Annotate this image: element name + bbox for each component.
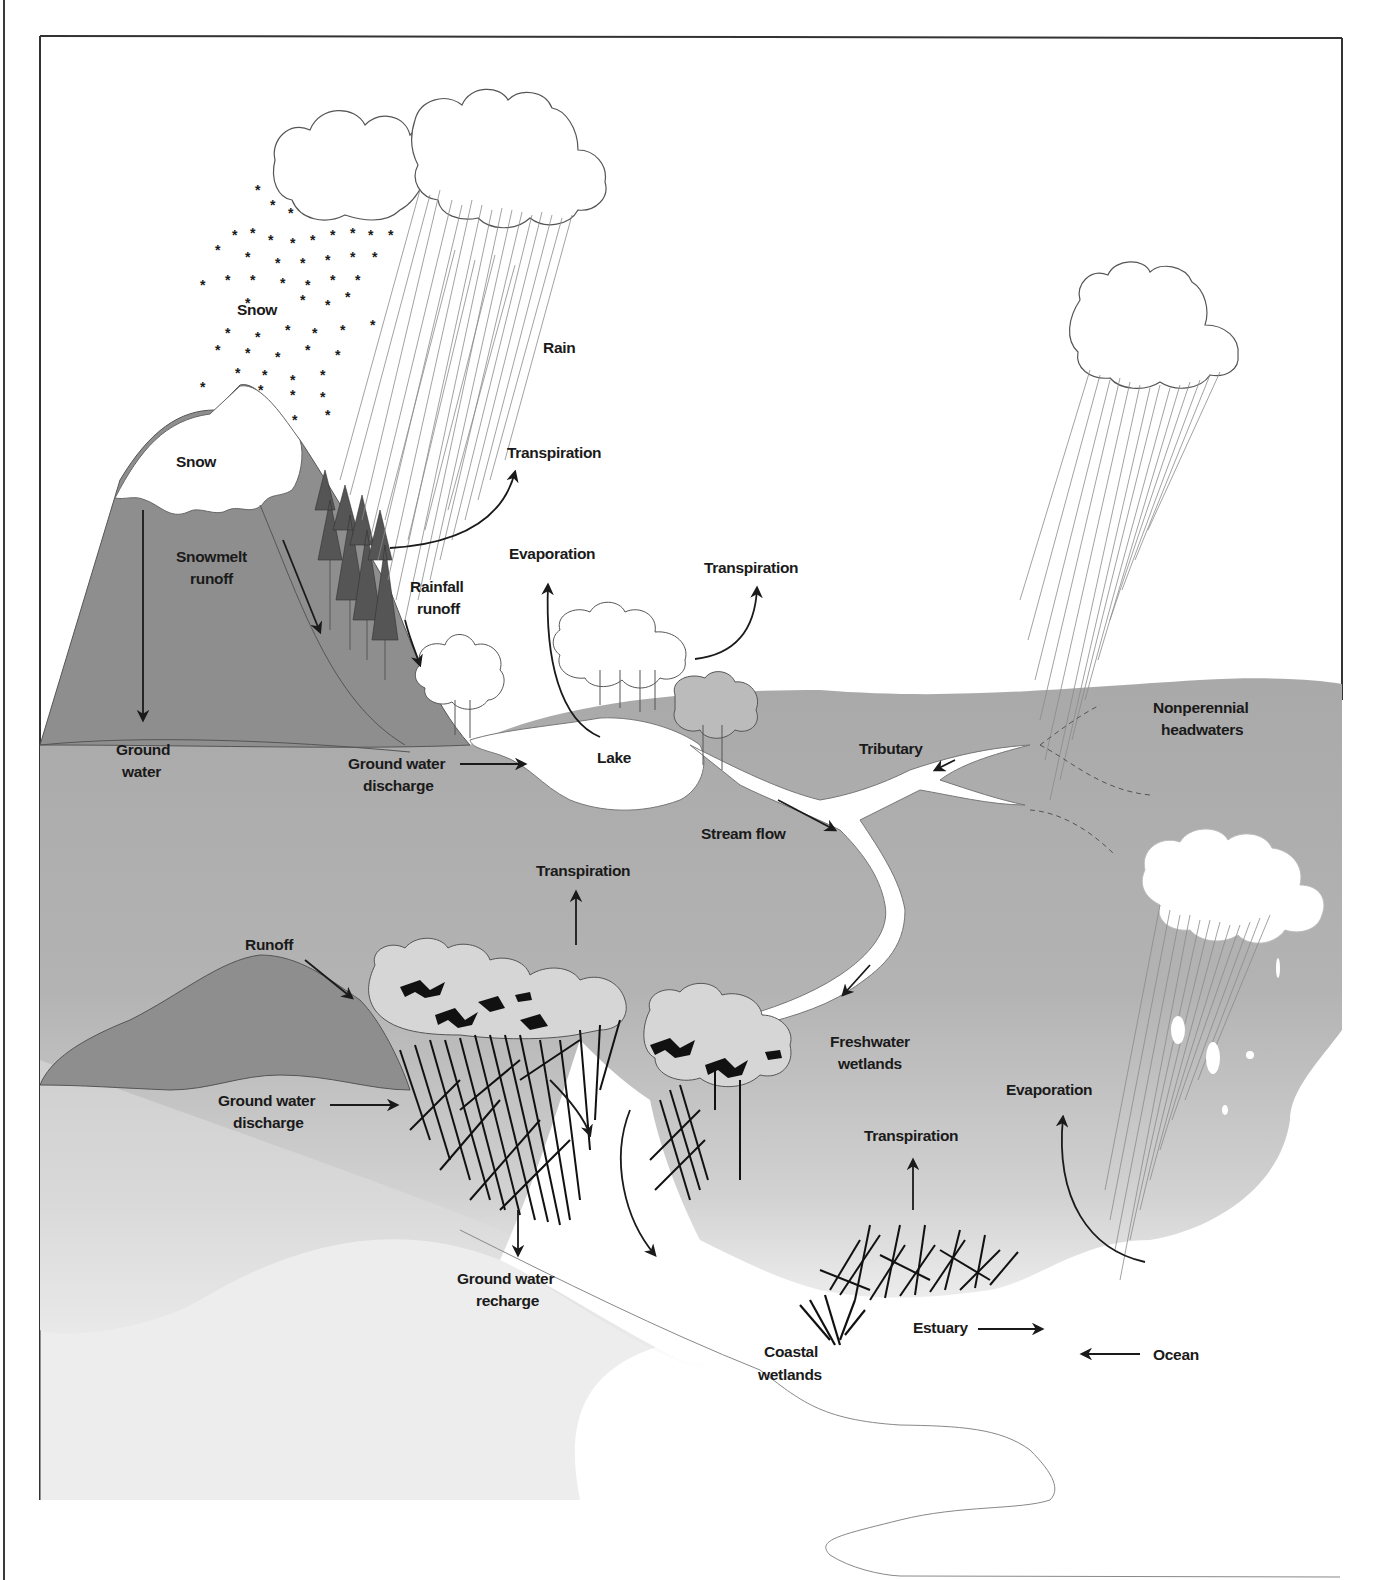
label-nonperennial-2: headwaters [1161,721,1243,738]
label-gw-discharge-wetland-2: discharge [233,1114,304,1131]
svg-text:*: * [325,252,331,268]
label-runoff: Runoff [245,936,294,953]
svg-text:*: * [320,367,326,383]
label-transpiration-forest: Transpiration [507,444,601,461]
svg-text:*: * [325,407,331,423]
svg-text:*: * [285,322,291,338]
svg-text:*: * [245,249,251,265]
svg-text:*: * [350,225,356,241]
svg-text:*: * [305,277,311,293]
label-gw-recharge-1: Ground water [457,1270,554,1287]
label-transpiration-wetland: Transpiration [536,862,630,879]
svg-text:*: * [258,382,264,398]
label-gw-discharge-lake-1: Ground water [348,755,445,772]
svg-text:*: * [355,272,361,288]
svg-text:*: * [290,372,296,388]
label-coastal-wetlands-2: wetlands [757,1366,822,1383]
label-snowmelt-runoff-1: Snowmelt [176,548,247,565]
land-mass [40,678,1342,1500]
cloud-right [1070,262,1239,389]
svg-text:*: * [225,272,231,288]
label-ground-water-1: Ground [116,741,170,758]
svg-text:*: * [345,289,351,305]
label-rainfall-runoff-2: runoff [417,600,461,617]
svg-text:*: * [305,342,311,358]
label-stream-flow: Stream flow [701,825,787,842]
svg-text:*: * [300,292,306,308]
svg-text:*: * [275,349,281,365]
svg-text:*: * [200,277,206,293]
svg-text:*: * [200,379,206,395]
label-estuary: Estuary [913,1319,968,1336]
label-rain: Rain [543,339,575,356]
svg-text:*: * [215,342,221,358]
svg-text:*: * [262,367,268,383]
svg-text:*: * [225,325,231,341]
svg-text:*: * [310,232,316,248]
label-freshwater-wetlands-1: Freshwater [830,1033,910,1050]
label-nonperennial-1: Nonperennial [1153,699,1248,716]
svg-text:*: * [270,197,276,213]
label-snow-sky: Snow [237,301,278,318]
svg-text:*: * [288,205,294,221]
label-rainfall-runoff-1: Rainfall [410,578,464,595]
label-transpiration-marsh: Transpiration [864,1127,958,1144]
svg-text:*: * [368,227,374,243]
label-gw-discharge-lake-2: discharge [363,777,434,794]
svg-text:*: * [232,227,238,243]
svg-text:*: * [255,182,261,198]
svg-text:*: * [335,347,341,363]
svg-text:*: * [370,317,376,333]
svg-text:*: * [235,365,241,381]
svg-text:*: * [245,345,251,361]
svg-text:*: * [300,255,306,271]
cloud-center [412,89,606,227]
label-snow-peak: Snow [176,453,217,470]
label-gw-discharge-wetland-1: Ground water [218,1092,315,1109]
label-tributary: Tributary [859,740,923,757]
svg-text:*: * [312,325,318,341]
svg-text:*: * [292,412,298,428]
svg-text:*: * [330,272,336,288]
svg-text:*: * [290,235,296,251]
svg-text:*: * [275,255,281,271]
label-coastal-wetlands-1: Coastal [764,1343,818,1360]
svg-text:*: * [330,227,336,243]
svg-text:*: * [215,242,221,258]
svg-text:*: * [250,272,256,288]
svg-text:*: * [268,232,274,248]
label-freshwater-wetlands-2: wetlands [837,1055,902,1072]
svg-text:*: * [340,322,346,338]
label-lake: Lake [597,749,632,766]
svg-text:*: * [250,225,256,241]
label-snowmelt-runoff-2: runoff [190,570,234,587]
label-gw-recharge-2: recharge [476,1292,540,1309]
arrow-transpiration-trees [695,588,757,659]
label-ocean: Ocean [1153,1346,1199,1363]
svg-text:*: * [290,387,296,403]
svg-text:*: * [350,249,356,265]
svg-text:*: * [388,227,394,243]
svg-text:*: * [255,329,261,345]
svg-text:*: * [320,389,326,405]
label-evaporation-ocean: Evaporation [1006,1081,1092,1098]
svg-text:*: * [325,297,331,313]
label-ground-water-2: water [121,763,161,780]
label-evaporation-lake: Evaporation [509,545,595,562]
svg-text:*: * [280,275,286,291]
svg-text:*: * [372,249,378,265]
label-transpiration-trees: Transpiration [704,559,798,576]
